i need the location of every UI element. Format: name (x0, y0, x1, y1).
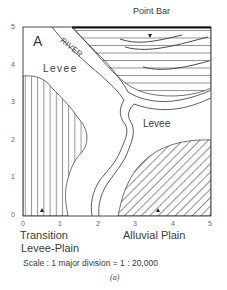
panel-letter: A (33, 33, 42, 49)
subcaption: (a) (110, 273, 119, 282)
levee-label-upper: Levee (43, 63, 78, 74)
y-tick: 5 (11, 23, 15, 30)
x-tick: 5 (208, 220, 212, 227)
levee-label-center: Levee (143, 118, 170, 129)
y-tick: 2 (11, 136, 15, 143)
alluvial-plain-region (118, 140, 211, 216)
transition-region (23, 76, 87, 216)
transition-label-1: Transition (20, 229, 68, 241)
x-tick: 4 (171, 220, 175, 227)
point-bar-label: Point Bar (133, 6, 170, 16)
x-tick: 1 (58, 220, 62, 227)
alluvial-plain-label: Alluvial Plain (123, 229, 185, 241)
y-tick: 3 (11, 98, 15, 105)
scale-text: Scale : 1 major division = 1 : 20,000 (23, 258, 158, 268)
y-tick: 0 (11, 211, 15, 218)
x-tick: 3 (133, 220, 137, 227)
y-tick: 4 (11, 61, 15, 68)
transition-label-2: Levee-Plain (21, 242, 79, 254)
x-tick: 0 (21, 220, 25, 227)
y-tick: 1 (11, 173, 15, 180)
river-south-outer (91, 100, 127, 216)
x-tick: 2 (96, 220, 100, 227)
point-bar-region (72, 27, 211, 96)
